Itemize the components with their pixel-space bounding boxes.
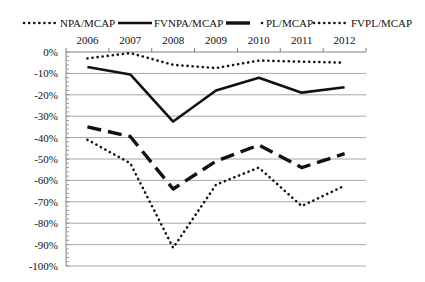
series-npa-mcap	[87, 53, 344, 68]
gridlines	[66, 73, 366, 266]
x-tick-label: 2011	[291, 34, 313, 46]
dash-dot-icon	[261, 22, 264, 25]
series-lines	[87, 53, 344, 248]
x-tick-label: 2009	[205, 34, 228, 46]
y-tick-label: -40%	[34, 132, 58, 144]
legend: NPA/MCAPFVNPA/MCAPPL/MCAPFVPL/MCAP	[24, 17, 412, 29]
series-fvnpa-mcap	[87, 67, 344, 122]
legend-item: PL/MCAP	[226, 17, 313, 29]
y-tick-label: -30%	[34, 110, 58, 122]
legend-label: FVNPA/MCAP	[154, 17, 223, 29]
x-tick-label: 2007	[119, 34, 142, 46]
x-tick-label: 2006	[76, 34, 99, 46]
y-tick-label: 0%	[43, 46, 58, 58]
y-tick-label: -70%	[34, 196, 58, 208]
y-tick-label: -50%	[34, 153, 58, 165]
y-tick-label: -90%	[34, 239, 58, 251]
y-tick-label: -10%	[34, 67, 58, 79]
legend-item: FVNPA/MCAP	[118, 17, 223, 29]
series-fvpl-mcap	[87, 140, 344, 248]
legend-item: NPA/MCAP	[24, 17, 115, 29]
y-axis-labels: 0%-10%-20%-30%-40%-50%-60%-70%-80%-90%-1…	[29, 46, 58, 272]
y-tick-label: -20%	[34, 89, 58, 101]
x-tick-label: 2008	[162, 34, 185, 46]
x-tick-label: 2010	[248, 34, 271, 46]
x-axis-labels: 2006200720082009201020112012	[76, 34, 355, 46]
legend-label: NPA/MCAP	[60, 17, 115, 29]
x-tick-label: 2012	[334, 34, 356, 46]
legend-label: FVPL/MCAP	[351, 17, 412, 29]
y-tick-label: -60%	[34, 174, 58, 186]
y-tick-label: -100%	[29, 260, 58, 272]
legend-label: PL/MCAP	[266, 17, 313, 29]
y-tick-label: -80%	[34, 217, 58, 229]
legend-item: FVPL/MCAP	[314, 17, 412, 29]
axes	[66, 48, 366, 266]
line-chart: NPA/MCAPFVNPA/MCAPPL/MCAPFVPL/MCAP 20062…	[0, 0, 425, 282]
series-pl-mcap	[87, 127, 344, 189]
